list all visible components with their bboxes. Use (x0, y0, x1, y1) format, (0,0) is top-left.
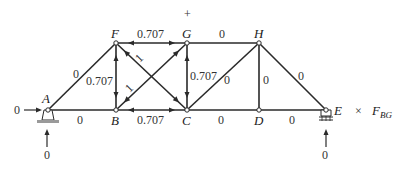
truss-diagram: A B C D E F G H 0 0.707 0 0 0.707 0 0 0.… (0, 0, 402, 169)
arrow-icon (128, 108, 134, 113)
force-label-FC: 1 (132, 51, 146, 65)
arrow-up-icon (45, 129, 50, 135)
arrow-up-icon (324, 129, 329, 135)
reaction-label-A-horizontal: 0 (14, 103, 20, 117)
node-label-B: B (111, 113, 119, 128)
joint-F (114, 41, 118, 45)
node-label-D: D (253, 113, 264, 128)
arrow-icon (128, 41, 134, 46)
joint-B (114, 108, 118, 112)
arrow-icon (114, 55, 119, 61)
force-label-CD: 0 (218, 113, 224, 127)
arrow-icon (114, 92, 119, 98)
joint-A (46, 108, 50, 112)
joint-D (257, 108, 261, 112)
caption: × F BG (355, 103, 392, 120)
joint-E (324, 108, 328, 112)
reaction-labels: 0 0 0 (14, 103, 328, 162)
node-label-C: C (182, 113, 191, 128)
plus-marker: + (184, 7, 191, 21)
reaction-arrows (24, 108, 329, 148)
node-label-A: A (41, 91, 50, 106)
node-label-F: F (110, 26, 120, 41)
force-label-DH: 0 (263, 73, 269, 87)
multiplier-symbol: × (355, 104, 362, 118)
arrow-icon (169, 108, 175, 113)
force-label-DE: 0 (289, 113, 295, 127)
force-label-BF: 0.707 (86, 74, 113, 88)
node-label-G: G (182, 26, 192, 41)
force-label-GH: 0 (219, 27, 225, 41)
joint-C (185, 108, 189, 112)
arrow-icon (185, 92, 190, 98)
force-label-AB: 0 (77, 113, 83, 127)
force-label-CG: 0.707 (190, 69, 217, 83)
joint-G (185, 41, 189, 45)
node-label-E: E (333, 103, 342, 118)
force-label-BC: 0.707 (137, 113, 164, 127)
force-label-FG: 0.707 (137, 27, 164, 41)
arrow-icon (169, 41, 175, 46)
joint-H (257, 41, 261, 45)
arrow-right-icon (36, 108, 42, 113)
reaction-label-A-vertical: 0 (44, 148, 50, 162)
reaction-label-E-vertical: 0 (322, 148, 328, 162)
force-label-CH: 0 (224, 73, 230, 87)
force-label-AF: 0 (73, 67, 79, 81)
member-HE (259, 43, 326, 110)
caption-subscript: BG (380, 110, 392, 120)
force-label-HE: 0 (298, 69, 304, 83)
arrow-icon (185, 55, 190, 61)
node-label-H: H (253, 26, 264, 41)
